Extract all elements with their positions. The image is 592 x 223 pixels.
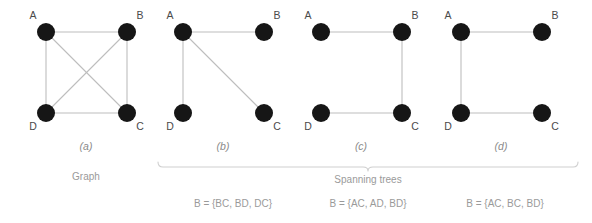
panel-b-label-B: B [273,9,280,21]
spanning-trees-brace-group: Spanning trees [158,162,578,185]
panel-d-label-D: D [444,120,452,132]
panel-c-node-D [312,104,330,122]
spanning-trees-label: Spanning trees [334,174,401,185]
panel-d: A B D C (d) B = {AC, BC, BD} [444,9,559,209]
panel-c-label-D: D [304,120,312,132]
panel-c-node-A [312,23,330,41]
spanning-trees-figure: A B D C (a) Graph A B D C (b) B = {BC, B… [0,0,592,223]
spanning-trees-brace [158,162,578,171]
panel-d-label-B: B [551,9,558,21]
panel-d-node-B [533,23,551,41]
panel-b-edge-AC [183,32,264,113]
panel-c-node-B [393,23,411,41]
panel-c-label-A: A [304,9,311,21]
panel-c-node-C [393,104,411,122]
panel-a-label-B: B [136,9,143,21]
panel-c-label-B: B [411,9,418,21]
panel-d-letter: (d) [495,140,508,152]
panel-c-set-label: B = {AC, AD, BD} [330,198,408,209]
panel-b-label-A: A [166,9,173,21]
panel-a-letter: (a) [80,140,93,152]
panel-c-label-C: C [411,120,419,132]
panel-c-letter: (c) [355,140,367,152]
panel-b-node-A [174,23,192,41]
panel-b-set-label: B = {BC, BD, DC} [194,198,273,209]
panel-a-node-B [118,23,136,41]
panel-b-letter: (b) [217,140,230,152]
panel-a-label-A: A [29,9,36,21]
panel-a-node-A [37,23,55,41]
panel-d-label-A: A [444,9,451,21]
panel-b-node-D [174,104,192,122]
panel-b: A B D C (b) B = {BC, BD, DC} [166,9,281,209]
panel-a-node-D [37,104,55,122]
panel-b-label-D: D [166,120,174,132]
panel-d-label-C: C [551,120,559,132]
panel-d-node-A [452,23,470,41]
panel-a-label-D: D [29,120,37,132]
panel-d-node-C [533,104,551,122]
panel-a: A B D C (a) Graph [29,9,144,182]
panel-d-set-label: B = {AC, BC, BD} [466,198,544,209]
panel-d-node-D [452,104,470,122]
panel-b-node-B [255,23,273,41]
panel-b-label-C: C [273,120,281,132]
panel-a-caption: Graph [72,171,100,182]
panel-a-node-C [118,104,136,122]
panel-b-node-C [255,104,273,122]
panel-a-label-C: C [136,120,144,132]
